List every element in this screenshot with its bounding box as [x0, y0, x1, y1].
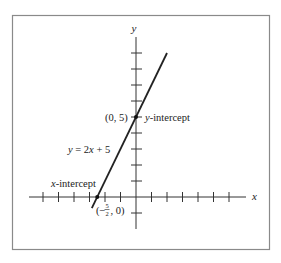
y-intercept-coordinates: (0, 5): [105, 112, 128, 124]
y-intercept-label: y-intercept: [144, 112, 190, 123]
y-axis-label: y: [131, 22, 137, 34]
line-y-equals-2x-plus-5: [92, 53, 167, 208]
equation-label: y = 2x + 5: [67, 144, 110, 155]
x-intercept-coordinates: (− 5 2 , 0): [96, 202, 125, 218]
graph-figure: y x (0, 5) y-intercept y = 2x + 5 x-inte…: [0, 0, 281, 263]
fraction-denominator: 2: [105, 210, 108, 217]
x-axis-label: x: [251, 190, 257, 202]
x-intercept-close-paren: , 0): [111, 205, 126, 217]
graph-svg: y x (0, 5) y-intercept y = 2x + 5 x-inte…: [0, 0, 281, 263]
y-intercept-point: [134, 115, 138, 119]
x-intercept-label: x-intercept: [50, 178, 96, 189]
x-intercept-point: [95, 195, 99, 199]
fraction-numerator: 5: [105, 202, 108, 209]
x-intercept-open-paren: (−: [96, 205, 105, 217]
